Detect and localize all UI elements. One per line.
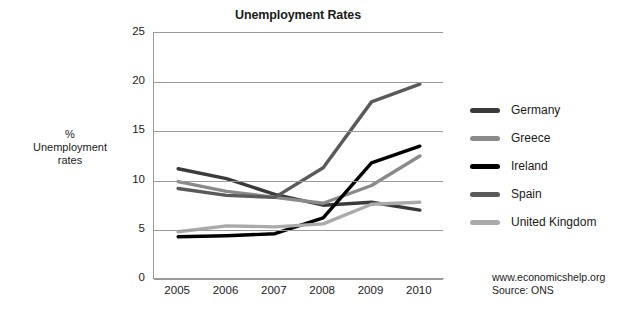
chart-screenshot: Unemployment Rates % Unemployment rates … — [0, 0, 638, 318]
legend-item-germany[interactable]: Germany — [470, 96, 630, 124]
y-tick-label: 15 — [111, 123, 145, 135]
legend-swatch — [470, 192, 500, 197]
series-line-ireland — [178, 146, 420, 237]
legend-label: Ireland — [511, 159, 548, 173]
y-axis-title-line-2: Unemployment — [18, 141, 122, 154]
series-lines — [154, 33, 444, 279]
legend-label: United Kingdom — [511, 215, 596, 229]
plot-area — [153, 32, 443, 278]
legend-swatch — [470, 136, 500, 141]
legend-item-ireland[interactable]: Ireland — [470, 152, 630, 180]
legend-swatch — [470, 220, 500, 225]
gridline — [154, 131, 443, 132]
footer-website: www.economicshelp.org — [492, 271, 605, 284]
y-axis-title: % Unemployment rates — [18, 128, 122, 167]
y-tick-label: 25 — [111, 25, 145, 37]
y-tick-label: 0 — [111, 271, 145, 283]
chart-title: Unemployment Rates — [153, 8, 443, 22]
x-tick-label: 2005 — [154, 284, 200, 296]
gridline — [154, 279, 443, 280]
y-tick-label: 10 — [111, 173, 145, 185]
legend-label: Greece — [511, 131, 550, 145]
legend-swatch — [470, 108, 500, 113]
x-tick-label: 2007 — [251, 284, 297, 296]
x-tick-label: 2010 — [396, 284, 442, 296]
legend-item-greece[interactable]: Greece — [470, 124, 630, 152]
x-tick-label: 2008 — [299, 284, 345, 296]
y-axis-title-line-3: rates — [18, 154, 122, 167]
legend-label: Spain — [511, 187, 542, 201]
gridline — [154, 181, 443, 182]
y-tick-label: 5 — [111, 222, 145, 234]
legend: GermanyGreeceIrelandSpainUnited Kingdom — [470, 96, 630, 236]
x-axis-line — [153, 278, 444, 279]
legend-item-spain[interactable]: Spain — [470, 180, 630, 208]
x-tick-label: 2006 — [203, 284, 249, 296]
gridline — [154, 230, 443, 231]
legend-label: Germany — [511, 103, 560, 117]
x-tick-label: 2009 — [348, 284, 394, 296]
y-tick-label: 20 — [111, 74, 145, 86]
legend-item-united-kingdom[interactable]: United Kingdom — [470, 208, 630, 236]
footer-credits: www.economicshelp.org Source: ONS — [492, 271, 605, 297]
gridline — [154, 82, 443, 83]
y-axis-title-line-1: % — [18, 128, 122, 141]
legend-swatch — [470, 164, 500, 169]
footer-source: Source: ONS — [492, 284, 605, 297]
